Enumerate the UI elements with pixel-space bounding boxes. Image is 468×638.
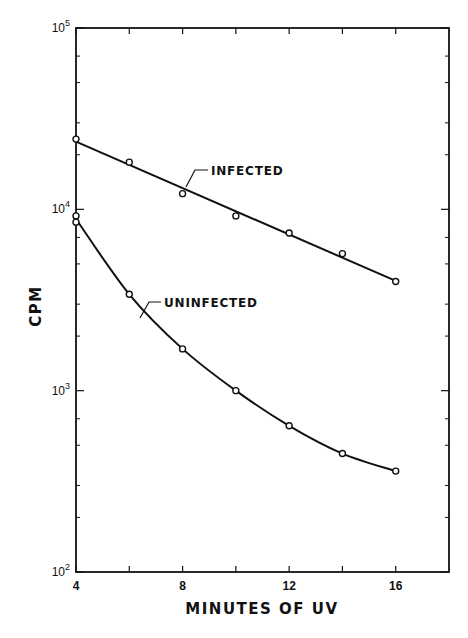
annotation-uninfected: UNINFECTED [164,296,258,310]
data-point-infected [233,213,239,219]
data-point-uninfected [180,346,186,352]
y-tick-label: 103 [52,381,70,398]
data-point-uninfected [73,213,79,219]
curve-infected [76,142,396,281]
data-point-infected [286,230,292,236]
axis-ticks [76,28,449,572]
x-tick-label: 12 [282,579,296,593]
data-point-uninfected [233,388,239,394]
plot-frame [76,28,449,572]
x-tick-label: 8 [179,579,186,593]
chart: 102103104105 481216 INFECTEDUNINFECTED M… [0,0,468,638]
series-annotations: INFECTEDUNINFECTED [140,164,283,318]
y-tick-label: 105 [52,18,70,35]
y-tick-labels: 102103104105 [52,18,70,579]
annotation-leader [186,170,208,187]
data-point-uninfected [339,451,345,457]
plot-border [76,28,449,572]
y-axis-title: CPM [27,285,45,326]
x-tick-labels: 481216 [73,579,403,593]
data-point-infected [339,251,345,257]
data-point-infected [73,136,79,142]
annotation-infected: INFECTED [211,164,283,178]
data-point-infected [393,278,399,284]
x-tick-label: 4 [73,579,80,593]
data-point-uninfected [73,219,79,225]
data-point-infected [126,159,132,165]
data-point-infected [180,191,186,197]
curve-uninfected [76,219,396,471]
y-tick-label: 102 [52,562,70,579]
data-point-uninfected [286,423,292,429]
data-point-uninfected [393,468,399,474]
x-tick-label: 16 [389,579,403,593]
y-tick-label: 104 [52,199,70,216]
data-point-uninfected [126,291,132,297]
x-axis-title: MINUTES OF UV [185,600,338,618]
